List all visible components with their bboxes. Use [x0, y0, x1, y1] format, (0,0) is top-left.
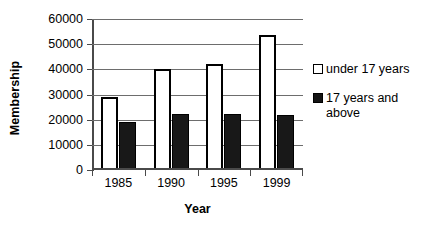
- x-axis-title: Year: [92, 202, 303, 216]
- plot-area: [92, 19, 303, 170]
- legend-swatch-icon: [313, 93, 323, 103]
- y-axis-tick-label: 50000: [48, 38, 83, 51]
- legend-label: under 17 years: [326, 62, 409, 77]
- x-axis-line: [92, 168, 303, 170]
- y-axis-title-text: Membership: [8, 61, 22, 136]
- x-axis-tick-labels: 1985199019951999: [92, 176, 303, 196]
- x-axis-tick-label: 1995: [210, 176, 238, 190]
- bar-group: [154, 19, 189, 170]
- y-axis-tick-labels: 0100002000030000400005000060000: [28, 12, 86, 177]
- bar: [172, 114, 189, 170]
- y-axis-tick-label: 20000: [48, 113, 83, 126]
- y-axis-tick-label: 30000: [48, 88, 83, 101]
- bar: [224, 114, 241, 170]
- legend-entry[interactable]: 17 years and above: [313, 91, 441, 121]
- y-axis-tick-label: 0: [76, 164, 83, 177]
- bar: [101, 97, 118, 170]
- bar: [206, 64, 223, 170]
- bar: [154, 69, 171, 170]
- legend: under 17 years17 years and above: [313, 62, 441, 135]
- bar-chart: Membership 01000020000300004000050000600…: [0, 0, 442, 234]
- bar: [277, 115, 294, 170]
- bar: [119, 122, 136, 170]
- y-axis-tick-label: 10000: [48, 138, 83, 151]
- bar-group: [259, 19, 294, 170]
- bar: [259, 35, 276, 170]
- legend-label: 17 years and above: [326, 91, 398, 121]
- x-axis-tick-label: 1990: [157, 176, 185, 190]
- legend-entry[interactable]: under 17 years: [313, 62, 441, 77]
- x-axis-tick-label: 1985: [104, 176, 132, 190]
- y-axis-tick-label: 60000: [48, 13, 83, 26]
- legend-swatch-icon: [313, 64, 323, 74]
- bar-group: [101, 19, 136, 170]
- y-axis-tick-label: 40000: [48, 63, 83, 76]
- y-axis-title: Membership: [2, 28, 28, 168]
- bar-group: [206, 19, 241, 170]
- x-axis-tick-label: 1999: [263, 176, 291, 190]
